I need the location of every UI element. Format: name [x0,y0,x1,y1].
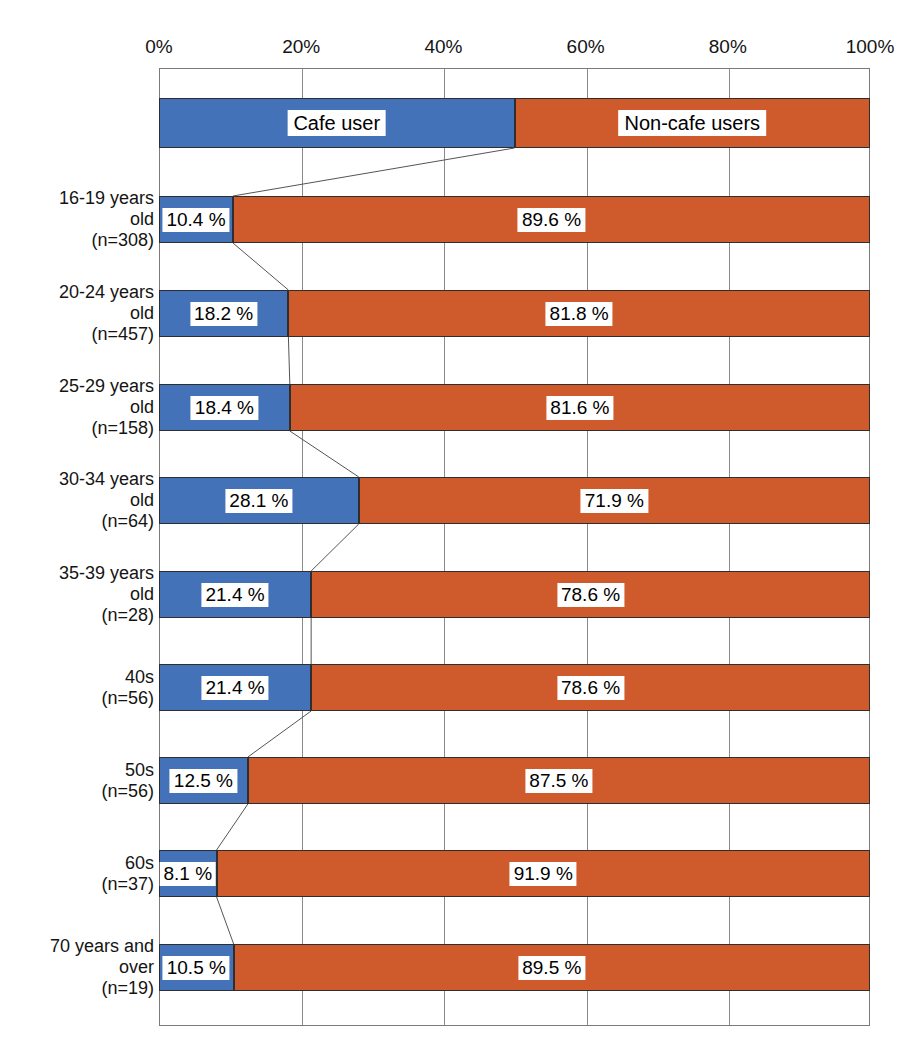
legend-segment-cafe-user: Cafe user [159,98,515,148]
bar-value-label-cafe-user: 28.1 % [225,489,292,513]
bar-segment-non-cafe-users: 78.6 % [311,571,870,618]
bar-value-label-non-cafe-users: 87.5 % [525,769,592,793]
bar-segment-non-cafe-users: 81.8 % [288,290,870,337]
bar-value-label-non-cafe-users: 71.9 % [581,489,648,513]
bar-segment-non-cafe-users: 89.5 % [234,944,870,991]
x-axis-tick-20pct: 20% [282,36,320,58]
x-axis-tick-0pct: 0% [145,36,172,58]
bar-segment-cafe-user: 18.2 % [159,290,288,337]
bar-segment-non-cafe-users: 71.9 % [359,477,870,524]
x-axis-tick-80pct: 80% [709,36,747,58]
bar-row: 8.1 %91.9 % [0,850,920,897]
bar-value-label-cafe-user: 8.1 % [159,862,216,886]
bar-segment-non-cafe-users: 91.9 % [217,850,870,897]
legend-label-non-cafe-users: Non-cafe users [618,110,766,136]
bar-value-label-cafe-user: 12.5 % [170,769,237,793]
bar-segment-cafe-user: 8.1 % [159,850,217,897]
bar-row: 21.4 %78.6 % [0,571,920,618]
bar-row: 18.4 %81.6 % [0,384,920,431]
legend-bar: Cafe userNon-cafe users [0,98,920,148]
bar-segment-cafe-user: 10.5 % [159,944,234,991]
bar-segment-cafe-user: 18.4 % [159,384,290,431]
bar-row: 10.5 %89.5 % [0,944,920,991]
bar-value-label-non-cafe-users: 78.6 % [557,676,624,700]
bar-segment-non-cafe-users: 87.5 % [248,757,870,804]
bar-value-label-cafe-user: 10.4 % [162,208,229,232]
bar-row: 18.2 %81.8 % [0,290,920,337]
bar-segment-cafe-user: 21.4 % [159,664,311,711]
bar-row: 21.4 %78.6 % [0,664,920,711]
bar-row: 12.5 %87.5 % [0,757,920,804]
bar-segment-cafe-user: 21.4 % [159,571,311,618]
x-axis-tick-100pct: 100% [846,36,895,58]
bar-value-label-cafe-user: 21.4 % [201,583,268,607]
bar-row: 10.4 %89.6 % [0,196,920,243]
bar-segment-cafe-user: 28.1 % [159,477,359,524]
bar-value-label-cafe-user: 21.4 % [201,676,268,700]
bar-row: 28.1 %71.9 % [0,477,920,524]
x-axis-tick-labels: 0%20%40%60%80%100% [0,36,920,62]
bar-value-label-non-cafe-users: 81.6 % [546,396,613,420]
stacked-bar-chart: 0%20%40%60%80%100% 16-19 yearsold(n=308)… [0,0,920,1058]
bar-value-label-non-cafe-users: 91.9 % [510,862,577,886]
bar-segment-non-cafe-users: 78.6 % [311,664,870,711]
bar-value-label-cafe-user: 10.5 % [163,956,230,980]
bar-value-label-cafe-user: 18.4 % [191,396,258,420]
bar-value-label-non-cafe-users: 89.6 % [518,208,585,232]
bar-value-label-non-cafe-users: 78.6 % [557,583,624,607]
x-axis-tick-40pct: 40% [424,36,462,58]
bar-value-label-non-cafe-users: 89.5 % [518,956,585,980]
bar-value-label-non-cafe-users: 81.8 % [546,302,613,326]
bar-segment-cafe-user: 12.5 % [159,757,248,804]
x-axis-tick-60pct: 60% [567,36,605,58]
bar-segment-non-cafe-users: 81.6 % [290,384,870,431]
legend-label-cafe-user: Cafe user [287,110,386,136]
legend-segment-non-cafe-users: Non-cafe users [515,98,871,148]
bar-segment-non-cafe-users: 89.6 % [233,196,870,243]
bar-segment-cafe-user: 10.4 % [159,196,233,243]
bar-value-label-cafe-user: 18.2 % [190,302,257,326]
